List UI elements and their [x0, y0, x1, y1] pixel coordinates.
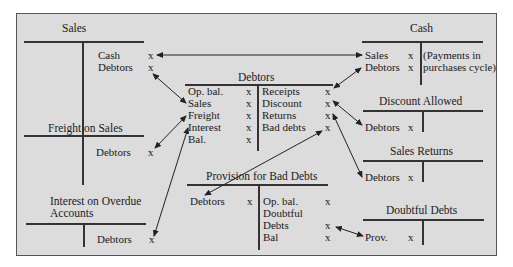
entry-label: Returns: [262, 109, 296, 121]
t-account-vertical: [422, 219, 424, 245]
t-account-horizontal: [26, 223, 146, 225]
entry-label: Sales: [365, 49, 388, 61]
t-account-vertical: [257, 85, 259, 151]
account-title: Accounts: [50, 207, 93, 219]
account-title: Doubtful Debts: [386, 204, 457, 217]
entry-value: x: [408, 49, 414, 61]
entry-value: x: [325, 231, 331, 243]
entry-label: Debts: [263, 219, 289, 231]
t-account-horizontal: [362, 41, 483, 43]
entry-label: Debtors: [96, 146, 131, 158]
t-account-vertical: [83, 223, 85, 247]
entry-label: Bal.: [188, 133, 206, 145]
account-title: Cash: [410, 22, 433, 35]
t-account-vertical: [422, 160, 424, 182]
note-text: (Payments in: [423, 49, 481, 61]
entry-value: x: [246, 109, 252, 121]
entry-value: x: [246, 121, 252, 133]
entry-label: Bad debts: [262, 121, 306, 133]
entry-value: x: [325, 121, 331, 133]
entry-label: Prov.: [365, 231, 388, 243]
entry-label: Debtors: [98, 61, 133, 73]
account-title: Provision for Bad Debts: [206, 170, 317, 183]
entry-label: Bal: [263, 231, 278, 243]
entry-label: Debtors: [365, 171, 400, 183]
entry-label: Sales: [188, 97, 211, 109]
entry-value: x: [325, 97, 331, 109]
entry-value: x: [408, 61, 414, 73]
entry-value: x: [247, 195, 253, 207]
entry-value: x: [246, 85, 252, 97]
entry-label: Debtors: [97, 233, 132, 245]
account-title: Sales Returns: [390, 145, 453, 158]
t-account-vertical: [258, 184, 260, 250]
t-account-horizontal: [24, 135, 144, 137]
t-account-vertical: [82, 41, 84, 185]
entry-value: x: [246, 97, 252, 109]
t-account-vertical: [422, 110, 424, 132]
entry-label: Debtors: [365, 121, 400, 133]
entry-label: Discount: [262, 97, 302, 109]
account-title: Debtors: [238, 71, 274, 84]
entry-value: x: [325, 85, 331, 97]
entry-value: x: [408, 121, 414, 133]
entry-value: x: [148, 61, 154, 73]
entry-label: Op. bal.: [188, 85, 223, 97]
account-title: Freight on Sales: [48, 122, 123, 135]
entry-value: x: [246, 133, 252, 145]
entry-value: x: [325, 109, 331, 121]
entry-label: Receipts: [262, 85, 300, 97]
account-title: Sales: [62, 22, 86, 35]
t-account-vertical: [420, 41, 422, 85]
entry-label: Op. bal.: [263, 195, 298, 207]
entry-value: x: [325, 219, 331, 231]
entry-value: x: [149, 233, 155, 245]
entry-value: x: [408, 231, 414, 243]
entry-label: Interest: [188, 121, 221, 133]
entry-value: x: [148, 146, 154, 158]
entry-value: x: [408, 171, 414, 183]
note-text: purchases cycle): [423, 61, 496, 73]
entry-label: Debtors: [365, 61, 400, 73]
t-account-horizontal: [24, 41, 144, 43]
account-title: Interest on Overdue: [50, 195, 141, 207]
entry-label: Doubtful: [263, 207, 303, 219]
t-account-horizontal: [363, 219, 484, 221]
entry-value: x: [325, 195, 331, 207]
entry-value: x: [148, 49, 154, 61]
entry-label: Debtors: [190, 195, 225, 207]
entry-label: Cash: [98, 49, 120, 61]
account-title: Discount Allowed: [379, 95, 462, 108]
entry-label: Freight: [188, 109, 220, 121]
